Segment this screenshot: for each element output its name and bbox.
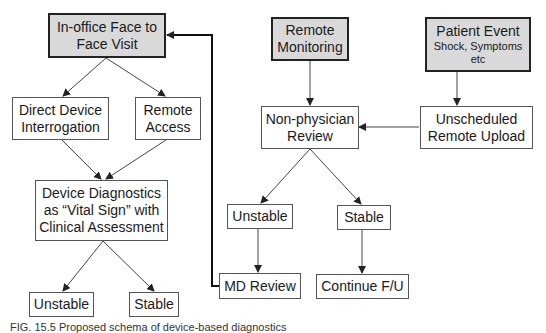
node-label: In-office Face to bbox=[57, 19, 157, 36]
node-label: Monitoring bbox=[277, 39, 342, 56]
node-label: Patient Event bbox=[436, 23, 519, 40]
node-unscheduled-remote-upload: Unscheduled Remote Upload bbox=[420, 106, 533, 149]
node-continue-fu: Continue F/U bbox=[316, 274, 409, 299]
figure-caption: FIG. 15.5 Proposed schema of device-base… bbox=[10, 321, 286, 333]
node-label: Continue F/U bbox=[321, 278, 403, 295]
node-right-stable: Stable bbox=[337, 205, 391, 230]
node-label: Device Diagnostics bbox=[42, 185, 161, 202]
node-label: Remote Upload bbox=[428, 128, 525, 145]
node-label: Stable bbox=[134, 296, 174, 313]
node-label: Direct Device bbox=[19, 102, 102, 119]
node-label: MD Review bbox=[224, 278, 296, 295]
node-right-unstable: Unstable bbox=[227, 204, 293, 229]
node-sublabel: etc bbox=[471, 53, 486, 66]
node-device-diagnostics: Device Diagnostics as “Vital Sign” with … bbox=[35, 180, 168, 241]
node-label: Remote bbox=[143, 102, 192, 119]
node-md-review: MD Review bbox=[219, 273, 301, 299]
node-left-stable: Stable bbox=[129, 292, 179, 317]
node-label: Stable bbox=[344, 209, 384, 226]
node-in-office-visit: In-office Face to Face Visit bbox=[48, 13, 166, 58]
node-label: Interrogation bbox=[21, 119, 100, 136]
node-label: Review bbox=[287, 128, 333, 145]
node-label: Unstable bbox=[232, 208, 287, 225]
node-non-physician-review: Non-physician Review bbox=[261, 106, 359, 149]
node-label: Clinical Assessment bbox=[39, 219, 164, 236]
node-left-unstable: Unstable bbox=[29, 292, 94, 317]
node-label: Non-physician bbox=[266, 111, 355, 128]
node-patient-event: Patient Event Shock, Symptoms etc bbox=[425, 17, 531, 72]
node-label: Remote bbox=[285, 22, 334, 39]
node-label: Unstable bbox=[34, 296, 89, 313]
node-sublabel: Shock, Symptoms bbox=[434, 40, 523, 53]
node-label: Access bbox=[145, 119, 190, 136]
node-label: as “Vital Sign” with bbox=[44, 202, 160, 219]
node-remote-monitoring: Remote Monitoring bbox=[271, 17, 349, 61]
node-label: Unscheduled bbox=[436, 111, 518, 128]
node-remote-access: Remote Access bbox=[135, 97, 201, 140]
node-label: Face Visit bbox=[76, 36, 137, 53]
node-direct-device-interrogation: Direct Device Interrogation bbox=[12, 97, 109, 140]
